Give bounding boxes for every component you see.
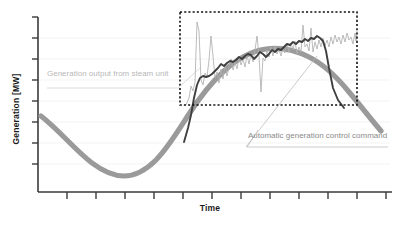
chart-plot-area bbox=[0, 0, 401, 225]
chart-figure: Generation [MW] Time Generation output f… bbox=[0, 0, 401, 225]
y-axis-ticks bbox=[32, 17, 38, 164]
x-axis-label: Time bbox=[155, 203, 265, 213]
series-agc-command-line bbox=[186, 22, 357, 105]
annotation-agc-command: Automatic generation control command bbox=[248, 131, 388, 141]
annotation-steam-unit: Generation output from steam unit bbox=[47, 69, 187, 79]
y-axis-label: Generation [MW] bbox=[11, 62, 21, 156]
gridlines bbox=[38, 38, 390, 164]
series-steam-unit-curve bbox=[41, 48, 381, 176]
x-axis-ticks bbox=[67, 192, 386, 199]
